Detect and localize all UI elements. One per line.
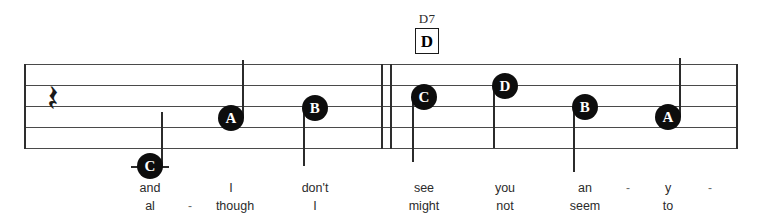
notehead-letter-b[interactable]: B — [572, 94, 598, 120]
lyric-verse1-word: an — [578, 182, 592, 195]
music-score-canvas: 𝄽D7DCABCDBAandIdon'tseeyouan-y-al-though… — [0, 0, 765, 222]
notehead-letter-c[interactable]: C — [411, 84, 437, 110]
note-stem — [412, 97, 414, 162]
lyric-verse1-word: and — [140, 182, 161, 195]
lyric-verse1-word: I — [229, 182, 232, 195]
double-barline-right — [390, 64, 392, 149]
lyric-verse1-word: see — [414, 182, 434, 195]
notehead-letter-a[interactable]: A — [655, 104, 681, 130]
note-stem — [573, 107, 575, 172]
notehead-letter-a[interactable]: A — [218, 105, 244, 131]
lyric-verse1-word: you — [495, 182, 515, 195]
chord-symbol-group: D7D — [397, 12, 457, 54]
double-barline-left — [381, 64, 383, 149]
lyric-verse2-word: - — [188, 200, 192, 213]
lyric-verse2-word: al — [145, 200, 155, 213]
note-stem — [493, 86, 495, 148]
lyric-verse2-word: might — [409, 200, 440, 213]
lyric-verse1-word: - — [708, 182, 712, 195]
lyric-verse1-word: don't — [302, 182, 329, 195]
note-stem — [679, 58, 681, 117]
lyric-verse2-word: though — [216, 200, 254, 213]
lyric-verse2-word: I — [313, 200, 316, 213]
note-stem — [242, 60, 244, 118]
notehead-letter-b[interactable]: B — [302, 95, 328, 121]
staff-end-barline — [736, 64, 738, 149]
lyric-verse1-word: - — [626, 182, 630, 195]
quarter-rest: 𝄽 — [47, 79, 59, 117]
note-stem — [161, 112, 163, 166]
notehead-letter-d[interactable]: D — [492, 73, 518, 99]
lyric-verse1-word: y — [665, 182, 671, 195]
lyric-verse2-word: to — [663, 200, 673, 213]
lyric-verse2-word: seem — [570, 200, 601, 213]
chord-diagram-box: D — [415, 28, 439, 54]
notehead-letter-c[interactable]: C — [137, 153, 163, 179]
lyric-verse2-word: not — [496, 200, 513, 213]
staff-start-barline — [24, 64, 26, 149]
chord-name-text: D7 — [397, 12, 457, 25]
